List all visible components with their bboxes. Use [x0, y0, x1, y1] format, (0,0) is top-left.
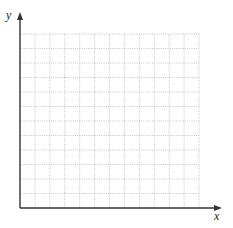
- x-axis-label: x: [213, 209, 220, 223]
- coordinate-grid: y x: [0, 0, 233, 228]
- y-axis-arrow-icon: [17, 12, 23, 20]
- grid-lines: [20, 34, 199, 208]
- y-axis-label: y: [5, 8, 12, 22]
